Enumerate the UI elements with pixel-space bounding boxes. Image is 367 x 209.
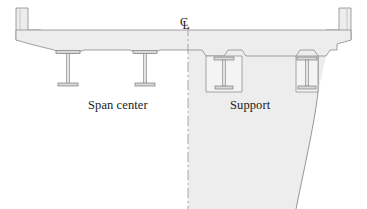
girder-support-2-bottom-flange bbox=[298, 86, 316, 89]
bridge-cross-section-figure: CL Span center Support bbox=[0, 0, 367, 209]
girder-span-1 bbox=[56, 51, 80, 87]
girder-support-1-web bbox=[222, 60, 225, 86]
girder-span-1-top-flange bbox=[56, 51, 80, 54]
girder-span-2-web bbox=[143, 54, 146, 84]
girder-span-2-bottom-flange bbox=[135, 83, 155, 86]
span-center-girders bbox=[56, 51, 157, 87]
centerline-symbol: CL bbox=[180, 16, 188, 28]
girder-span-1-bottom-flange bbox=[58, 83, 78, 86]
girder-span-2 bbox=[133, 51, 157, 87]
centerline-c-letter: C bbox=[180, 15, 188, 29]
girder-span-1-web bbox=[66, 54, 69, 84]
span-center-label: Span center bbox=[88, 98, 148, 113]
girder-support-2-web bbox=[305, 60, 308, 86]
girder-support-2-recess-group bbox=[296, 56, 318, 92]
girder-span-2-top-flange bbox=[133, 51, 157, 54]
support-label: Support bbox=[230, 98, 270, 113]
girder-support-1-bottom-flange bbox=[215, 86, 233, 89]
centerline-glyph: CL bbox=[180, 16, 188, 28]
girder-support-2-top-flange bbox=[297, 57, 317, 60]
girder-support-1-recess-group bbox=[206, 56, 242, 92]
girder-support-1-top-flange bbox=[214, 57, 234, 60]
